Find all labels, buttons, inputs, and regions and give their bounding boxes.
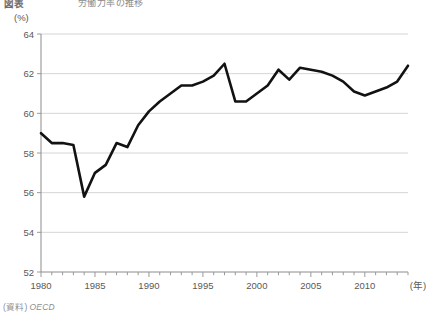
x-axis-tick-label: 1995 (192, 280, 213, 291)
y-axis-tick-label: 64 (23, 29, 34, 40)
y-axis-tick-label: 60 (23, 108, 34, 119)
source-note: (資料)OECD (3, 300, 55, 312)
x-axis-tick-label: 1990 (138, 280, 159, 291)
source-value: OECD (29, 302, 54, 312)
x-axis-unit-label: (年) (410, 280, 426, 291)
x-axis-tick-label: 2000 (246, 280, 267, 291)
x-axis-tick-label: 2010 (354, 280, 375, 291)
source-label: (資料) (3, 302, 27, 312)
line-chart-plot: 5254565860626419801985199019952000200520… (0, 0, 427, 300)
y-axis-tick-label: 58 (23, 148, 34, 159)
data-series-line (41, 64, 408, 197)
chart-figure: 図表 労働力率の推移 (%) 5254565860626419801985199… (0, 0, 427, 319)
x-axis-tick-label: 2005 (300, 280, 321, 291)
y-axis-tick-label: 52 (23, 267, 34, 278)
y-axis-tick-label: 54 (23, 227, 34, 238)
y-axis-tick-label: 56 (23, 187, 34, 198)
x-axis-tick-label: 1980 (30, 280, 51, 291)
y-axis-tick-label: 62 (23, 68, 34, 79)
x-axis-tick-label: 1985 (84, 280, 105, 291)
